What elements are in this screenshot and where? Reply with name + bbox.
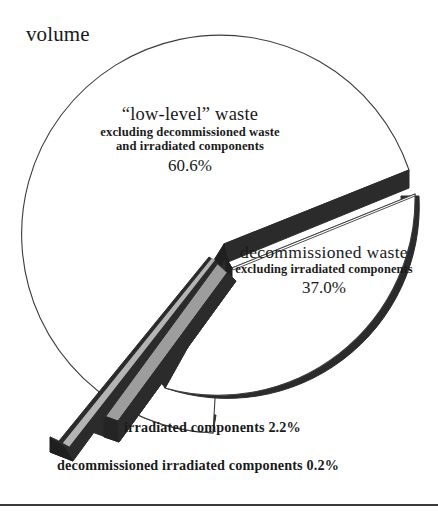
slice-label-decommissioned-irradiated-components: decommissioned irradiated components 0.2… [57, 458, 339, 474]
slice-label-low-level-value: 60.6% [60, 156, 320, 175]
slice-label-low-level-name: “low-level” waste [60, 104, 320, 125]
slice-label-low-level-waste: “low-level” waste excluding decommission… [60, 104, 320, 175]
slice-label-decommissioned-note: excluding irradiated components [218, 263, 430, 277]
slice-label-low-level-note-1: excluding decommissioned waste [60, 125, 320, 139]
slice-label-low-level-note-2: and irradiated components [60, 139, 320, 153]
slice-label-decommissioned-value: 37.0% [218, 278, 430, 297]
pie-chart-figure: volume “low-level” waste excluding decom… [0, 0, 438, 513]
slice-label-decommissioned-name: decommissioned waste [218, 243, 430, 263]
slice-label-irradiated-components: irradiated components 2.2% [124, 420, 301, 436]
slice-label-decommissioned-waste: decommissioned waste excluding irradiate… [218, 243, 430, 298]
chart-title: volume [26, 22, 90, 47]
page-bottom-rule [0, 504, 438, 506]
